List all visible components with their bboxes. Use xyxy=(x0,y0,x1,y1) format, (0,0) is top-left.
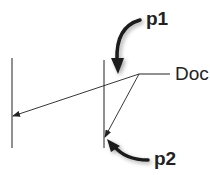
p2-label: p2 xyxy=(154,148,176,170)
doc-label: Doc xyxy=(175,63,209,85)
p2-pointer-icon xyxy=(107,139,148,160)
p1-label: p1 xyxy=(146,8,168,30)
p1-pointer-icon xyxy=(111,20,140,74)
diagram-canvas xyxy=(0,0,210,175)
